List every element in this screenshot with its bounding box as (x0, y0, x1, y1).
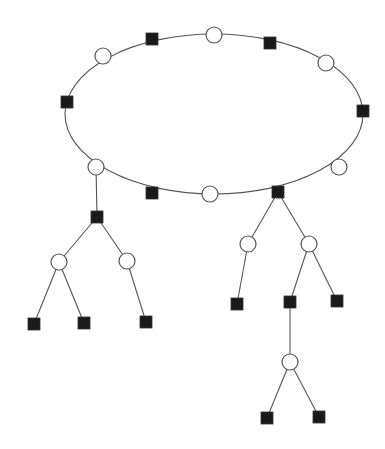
filled-square-node-s10 (140, 316, 152, 328)
open-circle-node-c5 (202, 186, 218, 202)
filled-square-node-s14 (261, 412, 273, 424)
open-circle-node-c6 (88, 159, 104, 175)
filled-square-node-s3 (357, 105, 369, 117)
open-circle-node-c3 (318, 55, 334, 71)
open-circle-node-c1 (95, 48, 111, 64)
edge-c10-s13 (309, 244, 337, 301)
open-circle-node-c2 (206, 27, 222, 43)
edge-c11-s15 (290, 362, 319, 417)
filled-square-node-s12 (284, 296, 296, 308)
edges-layer (34, 34, 363, 418)
filled-square-node-s9 (78, 317, 90, 329)
filled-square-node-s1 (146, 33, 158, 45)
filled-square-node-s15 (313, 411, 325, 423)
edge-c7-s9 (59, 262, 84, 323)
cactus-graph-diagram (0, 0, 385, 449)
diagram-canvas (0, 0, 385, 449)
open-circle-node-c10 (301, 236, 317, 252)
open-circle-node-c7 (51, 254, 67, 270)
edge-c9-s11 (237, 244, 248, 304)
edge-c10-s12 (290, 244, 309, 302)
edge-s7-c7 (59, 217, 97, 262)
filled-square-node-s13 (331, 295, 343, 307)
edge-s4-c9 (248, 192, 278, 244)
nodes-layer (28, 27, 369, 424)
filled-square-node-s2 (264, 37, 276, 49)
open-circle-node-c4 (331, 159, 347, 175)
edge-s4-c10 (278, 192, 309, 244)
filled-square-node-s11 (231, 298, 243, 310)
filled-square-node-s7 (91, 211, 103, 223)
filled-square-node-s8 (28, 318, 40, 330)
filled-square-node-s5 (146, 187, 158, 199)
open-circle-node-c8 (119, 253, 135, 269)
open-circle-node-c11 (282, 354, 298, 370)
filled-square-node-s6 (61, 96, 73, 108)
filled-square-node-s4 (272, 186, 284, 198)
edge-c8-s10 (127, 261, 146, 322)
edge-c7-s8 (34, 262, 59, 324)
open-circle-node-c9 (240, 236, 256, 252)
edge-c11-s14 (267, 362, 290, 418)
